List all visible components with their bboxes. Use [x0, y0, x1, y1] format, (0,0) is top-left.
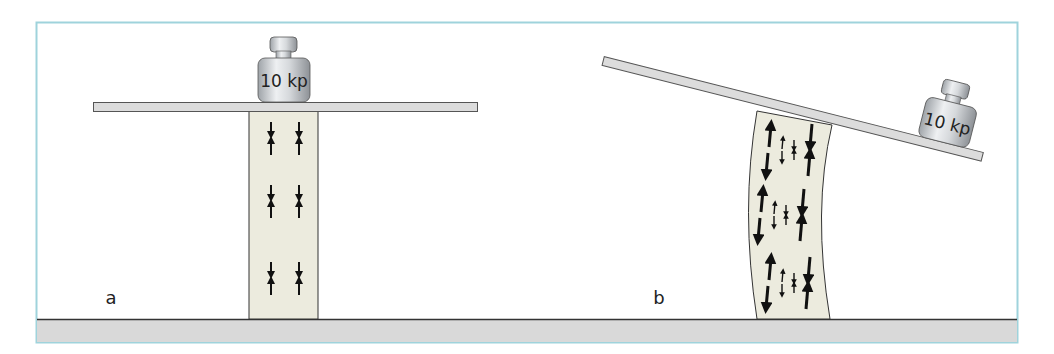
figure-frame: [37, 23, 1018, 343]
compression-arrow-down: [808, 257, 810, 280]
compression-arrow-up: [808, 153, 810, 176]
compression-arrow-up: [800, 218, 802, 241]
tension-arrow-up: [769, 125, 771, 147]
small-tension-arrow-up: [782, 271, 783, 282]
column-a: [249, 111, 318, 319]
tension-arrow-up: [761, 190, 763, 212]
small-tension-arrow-up: [782, 138, 783, 149]
compression-arrow-up: [806, 286, 808, 309]
compression-arrow-down: [802, 189, 804, 212]
ground: [37, 319, 1017, 342]
weight-label-a: 10 kp: [260, 71, 308, 91]
panel-label-b: b: [653, 287, 664, 308]
tension-arrow-down: [758, 218, 760, 240]
panel-label-a: a: [105, 287, 116, 308]
column-b: [749, 111, 833, 319]
compression-arrow-down: [810, 124, 812, 147]
plank-a: [94, 103, 478, 112]
small-tension-arrow-up: [774, 203, 775, 214]
tension-arrow-down: [766, 286, 768, 308]
stress-diagram: 10 kp a 10 kp b: [0, 0, 1054, 354]
tension-arrow-down: [766, 153, 768, 175]
tension-arrow-up: [769, 258, 771, 280]
